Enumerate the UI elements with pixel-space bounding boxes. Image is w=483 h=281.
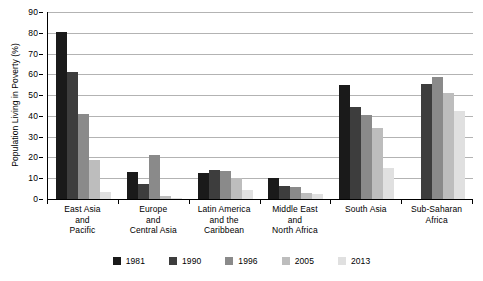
bar-2005 <box>372 128 383 199</box>
bar-1996 <box>290 187 301 199</box>
y-axis-tick-label: 20 <box>28 152 38 162</box>
legend-item-1981[interactable]: 1981 <box>113 256 145 266</box>
bar-2013 <box>454 111 465 199</box>
bar-1990 <box>350 107 361 199</box>
y-axis-tick-label: 40 <box>28 111 38 121</box>
y-axis-tick-mark <box>39 157 43 158</box>
x-axis-category-6: Sub-SaharanAfrica <box>401 204 472 225</box>
legend: 19811990199620052013 <box>0 252 483 270</box>
bar-2013 <box>242 190 253 199</box>
bar-2005 <box>89 160 100 199</box>
bar-1990 <box>279 186 290 199</box>
x-axis-category-5: South Asia <box>330 204 401 215</box>
y-axis-tick-label: 80 <box>28 28 38 38</box>
bar-1981 <box>339 85 350 199</box>
y-axis-tick-label: 60 <box>28 69 38 79</box>
bar-1996 <box>432 77 443 199</box>
bar-2005 <box>231 178 242 199</box>
bar-1990 <box>209 170 220 199</box>
y-axis-tick-label: 90 <box>28 7 38 17</box>
y-axis-tick-mark <box>39 33 43 34</box>
bars-layer <box>48 12 473 199</box>
x-axis-category-line: Europe <box>118 204 189 215</box>
bar-1990 <box>67 72 78 199</box>
legend-swatch-icon <box>169 257 177 265</box>
bar-group <box>410 12 465 199</box>
y-axis-tick-mark <box>39 116 43 117</box>
legend-swatch-icon <box>338 257 346 265</box>
y-axis-tick-label: 50 <box>28 90 38 100</box>
x-axis-category-line: Pacific <box>47 225 118 236</box>
legend-label: 2013 <box>351 256 370 266</box>
legend-swatch-icon <box>282 257 290 265</box>
y-axis-tick-mark <box>39 95 43 96</box>
x-axis-category-line: Central Asia <box>118 225 189 236</box>
bar-1990 <box>421 84 432 199</box>
legend-label: 1981 <box>126 256 145 266</box>
x-axis-category-line: Middle East <box>260 204 331 215</box>
x-axis-category-line: and the <box>189 215 260 226</box>
x-axis-category-line: South Asia <box>330 204 401 215</box>
bar-1996 <box>78 114 89 199</box>
legend-label: 1996 <box>238 256 257 266</box>
bar-1981 <box>198 173 209 199</box>
legend-item-1990[interactable]: 1990 <box>169 256 201 266</box>
plot-area <box>47 12 473 200</box>
legend-swatch-icon <box>113 257 121 265</box>
bar-1996 <box>149 155 160 199</box>
legend-swatch-icon <box>225 257 233 265</box>
legend-item-2005[interactable]: 2005 <box>282 256 314 266</box>
bar-group <box>127 12 182 199</box>
bar-group <box>198 12 253 199</box>
legend-item-2013[interactable]: 2013 <box>338 256 370 266</box>
x-axis-category-line: North Africa <box>260 225 331 236</box>
x-axis-category-line: and <box>47 215 118 226</box>
bar-1981 <box>127 172 138 199</box>
bar-group <box>339 12 394 199</box>
y-axis-tick-labels: 0102030405060708090 <box>0 12 43 199</box>
x-axis-category-4: Middle EastandNorth Africa <box>260 204 331 236</box>
y-axis-tick-mark <box>39 12 43 13</box>
bar-group <box>268 12 323 199</box>
bar-1990 <box>138 184 149 199</box>
y-axis-tick-label: 30 <box>28 132 38 142</box>
x-axis-category-line: and <box>118 215 189 226</box>
x-axis-category-line: East Asia <box>47 204 118 215</box>
y-axis-tick-mark <box>39 54 43 55</box>
x-axis-category-line: Africa <box>401 215 472 226</box>
x-axis-category-3: Latin Americaand theCaribbean <box>189 204 260 236</box>
x-axis-category-line: Caribbean <box>189 225 260 236</box>
y-axis-tick-label: 10 <box>28 173 38 183</box>
y-axis-tick-mark <box>39 137 43 138</box>
y-axis-tick-mark <box>39 199 43 200</box>
legend-label: 2005 <box>295 256 314 266</box>
legend-item-1996[interactable]: 1996 <box>225 256 257 266</box>
y-axis-tick-mark <box>39 74 43 75</box>
y-axis-tick-label: 70 <box>28 49 38 59</box>
bar-1981 <box>268 178 279 199</box>
bar-1981 <box>56 32 67 199</box>
x-axis-category-line: and <box>260 215 331 226</box>
bar-1996 <box>361 115 372 199</box>
legend-label: 1990 <box>182 256 201 266</box>
x-axis-category-2: EuropeandCentral Asia <box>118 204 189 236</box>
y-axis-tick-label: 0 <box>33 194 38 204</box>
y-axis-tick-mark <box>39 178 43 179</box>
x-axis-category-labels: East AsiaandPacificEuropeandCentral Asia… <box>47 204 473 249</box>
x-axis-category-line: Sub-Saharan <box>401 204 472 215</box>
bar-2013 <box>383 168 394 199</box>
bar-2005 <box>443 93 454 199</box>
x-axis-category-1: East AsiaandPacific <box>47 204 118 236</box>
x-axis-category-line: Latin America <box>189 204 260 215</box>
bar-2013 <box>100 192 111 199</box>
bar-1996 <box>220 171 231 199</box>
bar-group <box>56 12 111 199</box>
poverty-bar-chart: Population Living in Poverty (%) 0102030… <box>0 0 483 281</box>
